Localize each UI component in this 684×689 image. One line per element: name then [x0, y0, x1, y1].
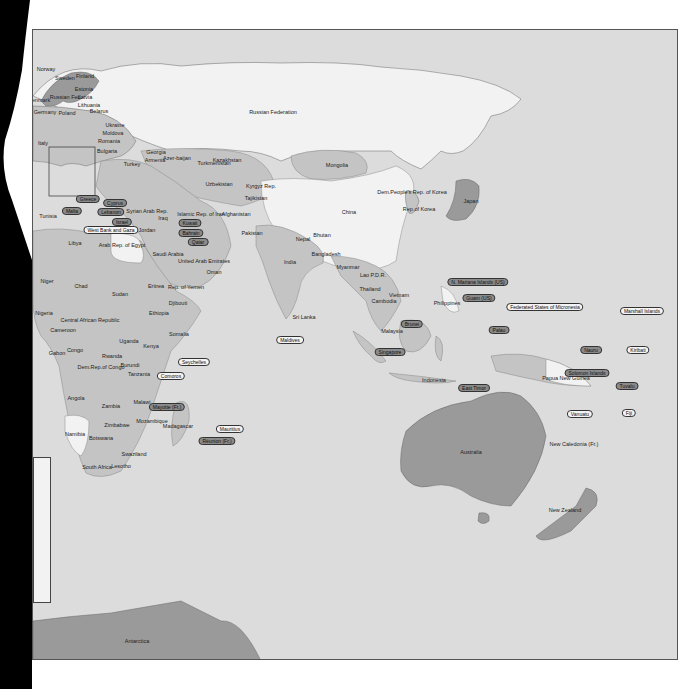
country-label: Ethiopia: [149, 310, 169, 316]
world-map[interactable]: NorwaySwedenFinlandEstoniaRussian Fed.La…: [32, 29, 678, 660]
sulawesi: [435, 336, 442, 361]
country-label: Rep.of Korea: [403, 206, 435, 212]
country-label: New Caledonia (Fr.): [550, 441, 599, 447]
callout-tag: Vanuatu: [567, 410, 593, 418]
country-label: Zambia: [102, 403, 120, 409]
country-label: Dem.Rep.of Congo: [77, 364, 124, 370]
callout-tag: Fiji: [622, 409, 636, 417]
callout-tag: Maldives: [276, 336, 304, 344]
country-label: Malawi: [133, 399, 150, 405]
country-label: Russian Federation: [249, 109, 297, 115]
callout-tag: Tuvalu: [616, 382, 639, 390]
country-label: Dem.People's Rep. of Korea: [377, 189, 447, 195]
country-label: Cambodia: [371, 298, 396, 304]
country-label: Mongolia: [326, 162, 348, 168]
callout-tag: West Bank and Gaza: [83, 226, 138, 234]
country-label: Afghanistan: [221, 211, 250, 217]
sumatra: [353, 331, 386, 363]
country-label: Niger: [40, 278, 53, 284]
country-label: Tunisia: [39, 213, 57, 219]
new-zealand: [536, 488, 597, 540]
country-label: Nepal: [296, 236, 310, 242]
country-label: Kenya: [143, 343, 159, 349]
callout-tag: Malta: [62, 207, 82, 215]
country-label: Uzbekistan: [205, 181, 232, 187]
map-shapes: [33, 30, 678, 660]
country-label: Iraq: [158, 215, 167, 221]
callout-tag: Comoros: [157, 372, 185, 380]
country-label: Belarus: [90, 108, 109, 114]
country-label: Lesotho: [111, 463, 131, 469]
country-label: Oman: [207, 269, 222, 275]
country-label: Libya: [68, 240, 81, 246]
callout-tag: Kuwait: [178, 219, 201, 227]
country-label: Antarctica: [125, 638, 149, 644]
callout-tag: Réunion (Fr.): [198, 437, 235, 445]
country-label: Pakistan: [241, 230, 262, 236]
country-label: Finland: [76, 73, 94, 79]
callout-tag: Palau: [489, 326, 510, 334]
callout-tag: Marshall Islands: [620, 307, 664, 315]
country-label: Bangladesh: [311, 251, 340, 257]
country-label: New Zealand: [549, 507, 581, 513]
country-label: Malaysia: [381, 328, 403, 334]
country-label: Philippines: [434, 300, 461, 306]
country-label: Jordan: [139, 227, 156, 233]
callout-tag: Qatar: [188, 238, 209, 246]
country-label: Azer-baijan: [163, 155, 191, 161]
callout-tag: Israel: [112, 218, 132, 226]
callout-tag: Solomon Islands: [565, 369, 610, 377]
antarctica: [33, 601, 261, 660]
country-label: Moldova: [103, 130, 124, 136]
country-label: Sweden: [55, 75, 75, 81]
callout-tag: Guam (US): [462, 294, 495, 302]
country-label: Kyrgyz Rep.: [246, 183, 276, 189]
country-label: Poland: [58, 110, 75, 116]
country-label: India: [284, 259, 296, 265]
callout-tag: Mayotte (Fr.): [149, 403, 185, 411]
country-label: Estonia: [75, 86, 93, 92]
country-label: Chad: [74, 283, 87, 289]
country-label: Swaziland: [121, 451, 146, 457]
country-label: Latvia: [78, 94, 93, 100]
country-label: Uganda: [119, 338, 138, 344]
country-label: Romania: [98, 138, 120, 144]
country-label: Bulgaria: [97, 148, 117, 154]
country-label: Kazakhstan: [213, 157, 242, 163]
egypt: [111, 233, 144, 263]
callout-tag: Nauru: [580, 346, 602, 354]
callout-tag: Federated States of Micronesia: [506, 303, 583, 311]
callout-tag: Seychelles: [178, 358, 210, 366]
country-label: Botswana: [89, 435, 113, 441]
callout-tag: Bahrain: [178, 229, 203, 237]
country-label: China: [342, 209, 356, 215]
callout-tag: Cyprus: [103, 199, 127, 207]
country-label: Tajikistan: [245, 195, 268, 201]
callout-tag: N. Mariana Islands (US): [447, 278, 508, 286]
country-label: Tanzania: [128, 371, 150, 377]
country-label: Sri Lanka: [292, 314, 315, 320]
callout-tag: Kiribati: [626, 346, 649, 354]
country-label: South Africa: [82, 464, 112, 470]
country-label: Burundi: [121, 362, 140, 368]
country-label: Central African Republic: [60, 317, 119, 323]
torn-edge: [0, 0, 40, 689]
country-label: United Arab Emirates: [178, 258, 230, 264]
country-label: Rwanda: [102, 353, 122, 359]
callout-tag: East Timor: [458, 384, 490, 392]
country-label: Ukraine: [106, 122, 125, 128]
country-label: Eritrea: [148, 283, 164, 289]
country-label: Turkey: [124, 161, 141, 167]
country-label: Islamic Rep. of Iran: [177, 211, 224, 217]
country-label: Lao P.D.R.: [360, 272, 386, 278]
callout-tag: Singapore: [375, 348, 406, 356]
country-label: Madagascar: [163, 423, 193, 429]
callout-tag: Brunei: [401, 320, 423, 328]
country-label: Australia: [460, 449, 481, 455]
country-label: Thailand: [359, 286, 380, 292]
country-label: Angola: [67, 395, 84, 401]
country-label: Gabon: [49, 350, 66, 356]
callout-tag: Mauritius: [216, 425, 244, 433]
callout-tag: Lebanon: [97, 208, 124, 216]
country-label: Saudi Arabia: [152, 251, 183, 257]
